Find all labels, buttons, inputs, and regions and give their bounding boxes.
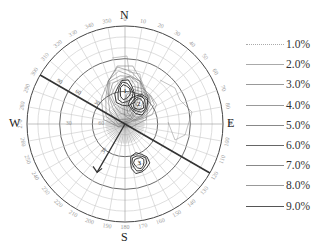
- legend-label: 5.0%: [286, 118, 310, 132]
- azimuth-tick-label: 240: [31, 170, 41, 181]
- compass-east-label: E: [227, 116, 234, 131]
- grid-spoke: [127, 135, 142, 221]
- legend-item: 2.0%: [238, 57, 311, 77]
- azimuth-tick-label: 40: [188, 40, 196, 48]
- azimuth-tick-label: 200: [84, 217, 95, 226]
- legend-label: 9.0%: [286, 199, 310, 213]
- peak-label: 2: [137, 100, 141, 108]
- legend-item: 6.0%: [238, 138, 311, 158]
- legend-swatch: [246, 105, 284, 106]
- azimuth-tick-label: 160: [155, 217, 166, 226]
- legend-label: 4.0%: [286, 98, 310, 112]
- compass-north-label: N: [120, 8, 129, 23]
- legend-swatch: [246, 165, 284, 166]
- azimuth-tick-label: 280: [18, 101, 25, 111]
- legend-swatch: [246, 84, 284, 85]
- grid-spoke: [28, 126, 114, 141]
- azimuth-tick-label: 310: [40, 51, 50, 62]
- azimuth-tick-label: 250: [24, 154, 33, 165]
- peak-label: 3: [137, 159, 141, 167]
- grid-spoke: [136, 126, 222, 141]
- legend-label: 7.0%: [286, 158, 310, 172]
- legend-label: 3.0%: [286, 77, 310, 91]
- compass-west-label: W: [9, 116, 20, 131]
- azimuth-tick-label: 30: [173, 29, 181, 37]
- legend-item: 7.0%: [238, 158, 311, 178]
- azimuth-tick-label: 60: [212, 68, 220, 76]
- radial-tick-label: 60: [98, 120, 104, 126]
- legend-swatch: [246, 44, 284, 45]
- azimuth-tick-label: 290: [22, 83, 31, 94]
- azimuth-tick-label: 260: [19, 137, 26, 147]
- azimuth-tick-label: 330: [67, 29, 78, 39]
- azimuth-tick-label: 50: [201, 53, 209, 61]
- radial-tick-label: 30: [66, 120, 72, 126]
- compass-south-label: S: [121, 230, 128, 245]
- legend-label: 1.0%: [286, 37, 310, 51]
- legend-label: 2.0%: [286, 57, 310, 71]
- legend-item: 4.0%: [238, 98, 311, 118]
- legend-swatch: [246, 145, 284, 146]
- legend-swatch: [246, 64, 284, 65]
- azimuth-tick-label: 350: [102, 17, 112, 24]
- azimuth-tick-label: 300: [30, 66, 40, 77]
- azimuth-tick-label: 120: [210, 170, 220, 181]
- azimuth-tick-label: 20: [157, 22, 165, 30]
- legend-label: 6.0%: [286, 138, 310, 152]
- grid-spoke: [136, 107, 222, 122]
- azimuth-tick-label: 100: [223, 137, 230, 147]
- azimuth-tick-label: 170: [138, 222, 148, 229]
- azimuth-tick-label: 80: [225, 102, 232, 109]
- legend-swatch: [246, 185, 284, 186]
- legend-item: 9.0%: [238, 199, 311, 219]
- azimuth-tick-label: 70: [219, 84, 227, 92]
- azimuth-tick-label: 320: [52, 39, 63, 49]
- azimuth-tick-label: 340: [84, 21, 95, 30]
- legend-swatch: [246, 125, 284, 126]
- grid-spoke: [108, 135, 123, 221]
- azimuth-tick-label: 210: [68, 209, 79, 219]
- azimuth-tick-label: 10: [140, 17, 147, 24]
- legend-item: 8.0%: [238, 178, 311, 198]
- legend-swatch: [246, 206, 284, 207]
- legend-item: 5.0%: [238, 118, 311, 138]
- legend: 1.0% 2.0% 3.0% 4.0% 5.0% 6.0% 7.0% 8.0% …: [238, 37, 311, 219]
- azimuth-tick-label: 110: [218, 154, 227, 164]
- legend-item: 1.0%: [238, 37, 311, 57]
- legend-item: 3.0%: [238, 77, 311, 97]
- legend-label: 8.0%: [286, 178, 310, 192]
- azimuth-tick-label: 150: [171, 209, 182, 219]
- azimuth-tick-label: 190: [102, 222, 112, 229]
- arrow-label: 30: [100, 146, 108, 154]
